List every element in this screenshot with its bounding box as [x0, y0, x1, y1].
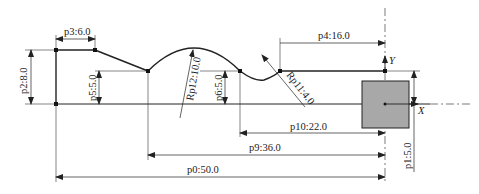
label-p0: p0:50.0: [187, 164, 219, 175]
label-p4: p4:16.0: [318, 30, 350, 41]
axis-label-x: X: [417, 105, 425, 116]
label-p1: p1:5.0: [402, 142, 413, 169]
label-p6: p6:5.0: [213, 74, 224, 101]
drawing-canvas: p3:6.0 p2:8.0 p5:5.0 p6:5.0 Rp12:10.0 Rp…: [0, 0, 479, 194]
label-p5: p5:5.0: [87, 74, 98, 101]
label-rp12: Rp12:10.0: [184, 56, 202, 101]
label-p9: p9:36.0: [249, 142, 281, 153]
label-p3: p3:6.0: [64, 26, 91, 37]
axis-label-y: Y: [389, 55, 396, 66]
label-p2: p2:8.0: [18, 67, 29, 94]
cad-drawing: p3:6.0 p2:8.0 p5:5.0 p6:5.0 Rp12:10.0 Rp…: [0, 0, 479, 194]
label-p10: p10:22.0: [290, 121, 327, 132]
